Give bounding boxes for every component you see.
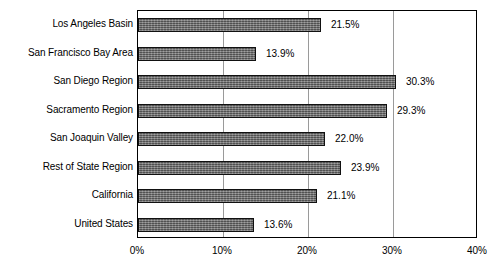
x-tick-label: 0% — [107, 244, 167, 258]
gridline-10% — [223, 11, 224, 237]
value-label: 13.6% — [264, 218, 292, 232]
x-tick-label: 40% — [447, 244, 500, 258]
bar-chart: Los Angeles BasinSan Francisco Bay AreaS… — [0, 0, 500, 276]
bar — [138, 18, 321, 32]
value-label: 23.9% — [351, 161, 379, 175]
category-label: Sacramento Region — [46, 103, 133, 117]
value-label: 22.0% — [335, 132, 363, 146]
bar — [138, 218, 254, 232]
gridline-20% — [308, 11, 309, 237]
x-tick-label: 30% — [362, 244, 422, 258]
category-label: San Diego Region — [53, 74, 133, 88]
category-label: San Joaquin Valley — [50, 131, 133, 145]
gridline-30% — [393, 11, 394, 237]
category-axis: Los Angeles BasinSan Francisco Bay AreaS… — [0, 10, 133, 238]
bar — [138, 189, 317, 203]
bar — [138, 104, 387, 118]
x-tick-label: 10% — [192, 244, 252, 258]
value-label: 30.3% — [406, 75, 434, 89]
category-label: United States — [74, 217, 133, 231]
x-axis: 0%10%20%30%40% — [137, 244, 477, 260]
value-label: 13.9% — [266, 47, 294, 61]
bar — [138, 47, 256, 61]
bar — [138, 161, 341, 175]
x-tick-label: 20% — [277, 244, 337, 258]
category-label: Rest of State Region — [43, 160, 133, 174]
bar — [138, 75, 396, 89]
value-label: 29.3% — [397, 104, 425, 118]
plot-area: 21.5%13.9%30.3%29.3%22.0%23.9%21.1%13.6% — [137, 10, 477, 238]
value-label: 21.1% — [327, 189, 355, 203]
category-label: San Francisco Bay Area — [28, 46, 133, 60]
value-label: 21.5% — [331, 18, 359, 32]
category-label: California — [92, 188, 133, 202]
bar — [138, 132, 325, 146]
category-label: Los Angeles Basin — [52, 17, 133, 31]
